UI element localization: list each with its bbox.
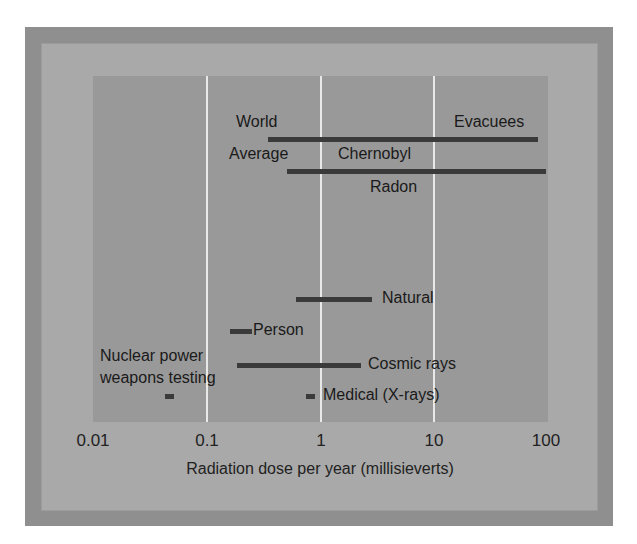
bar-medical (306, 394, 315, 399)
label-cosmic-rays: Cosmic rays (368, 355, 456, 373)
label-nuclear-line1: Nuclear power (100, 347, 203, 365)
gridline-1 (320, 76, 322, 422)
label-evacuees: Evacuees (454, 113, 524, 131)
label-nuclear-line2: weapons testing (100, 369, 216, 387)
tick-10: 10 (425, 431, 444, 451)
bar-nuclear-weapons (165, 394, 174, 399)
bar-chernobyl-evacuees (268, 137, 538, 142)
label-radon: Radon (370, 178, 417, 196)
label-medical: Medical (X-rays) (323, 386, 439, 404)
x-axis-label: Radiation dose per year (millisieverts) (186, 460, 454, 478)
label-world: World (236, 113, 278, 131)
tick-0.1: 0.1 (195, 431, 219, 451)
tick-0.01: 0.01 (76, 431, 109, 451)
label-natural: Natural (382, 289, 434, 307)
tick-1: 1 (316, 431, 325, 451)
bar-natural (296, 297, 372, 302)
label-chernobyl: Chernobyl (338, 145, 411, 163)
bar-person (230, 329, 252, 334)
label-average: Average (229, 145, 288, 163)
bar-radon (287, 169, 546, 174)
label-person: Person (253, 321, 304, 339)
bar-cosmic-rays (237, 363, 361, 368)
tick-100: 100 (532, 431, 560, 451)
